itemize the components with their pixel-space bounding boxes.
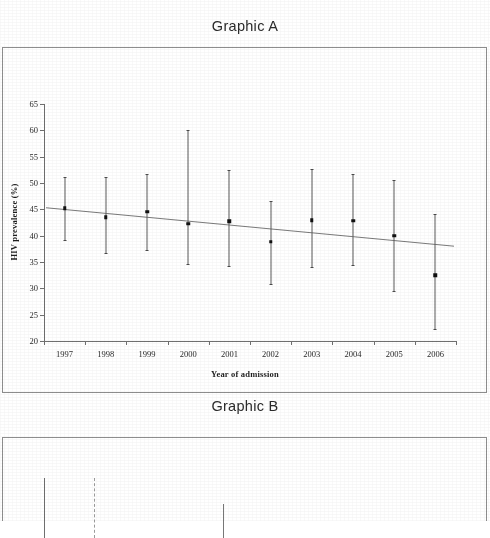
x-tick-label: 1999 [139,349,156,359]
error-bar-cap [187,264,190,265]
graphic-a-y-axis-title: HIV prevalence (%) [9,184,19,261]
y-tick-label: 50 [30,178,39,188]
error-bar-cap [228,266,231,267]
error-bar-cap [104,177,107,178]
x-tick-label: 2004 [345,349,362,359]
y-tick-label: 65 [30,99,39,109]
x-tick-label: 2005 [386,349,403,359]
y-tick-label: 25 [30,310,39,320]
data-point-marker [63,207,67,211]
error-bar-cap [104,253,107,254]
error-bar-cap [187,130,190,131]
x-tick-label: 2000 [180,349,197,359]
y-tick-label: 55 [30,152,39,162]
error-bar [229,170,230,265]
error-bar-cap [63,177,66,178]
graphic-b-y-axis-line [44,478,45,538]
x-tick-label: 2001 [221,349,238,359]
y-tick-label: 20 [30,336,39,346]
error-bar-cap [393,291,396,292]
graphic-b-series-stub [223,504,224,538]
data-point-marker [434,273,438,277]
error-bar-cap [434,214,437,215]
data-point-marker [310,219,314,223]
graphic-b-dashed-column [94,478,96,538]
error-bar-cap [269,284,272,285]
y-tick-label: 30 [30,283,39,293]
graphic-b-title: Graphic B [0,398,490,414]
error-bar-cap [352,265,355,266]
graphic-a-x-axis-title: Year of admission [0,369,490,379]
error-bar-cap [310,267,313,268]
x-tick-label: 1997 [56,349,73,359]
data-point-marker [145,210,149,214]
error-bar-cap [434,329,437,330]
data-point-marker [351,219,355,223]
error-bar-cap [146,174,149,175]
data-point-marker [269,240,273,244]
graphic-b-plot-area: 109 [44,478,456,538]
x-tick-label: 1998 [97,349,114,359]
y-tick-label: 45 [30,204,39,214]
data-point-marker [104,215,108,219]
error-bar [188,130,189,264]
error-bar-cap [310,169,313,170]
error-bar-cap [228,170,231,171]
x-tick-label: 2006 [427,349,444,359]
graphic-a-plot-area: 20253035404550556065 1997199819992000200… [44,104,456,341]
error-bar [435,214,436,329]
y-tick-label: 60 [30,125,39,135]
y-tick-label: 40 [30,231,39,241]
graphic-a-title: Graphic A [0,18,490,34]
data-point-marker [392,234,396,238]
error-bar-cap [146,250,149,251]
y-tick-label: 35 [30,257,39,267]
data-point-marker [186,222,190,226]
error-bar-cap [269,201,272,202]
x-tick [456,341,457,345]
data-point-marker [228,220,232,224]
x-tick-label: 2002 [262,349,279,359]
error-bar-cap [352,174,355,175]
x-tick-label: 2003 [303,349,320,359]
error-bar-cap [63,240,66,241]
error-bar-cap [393,180,396,181]
